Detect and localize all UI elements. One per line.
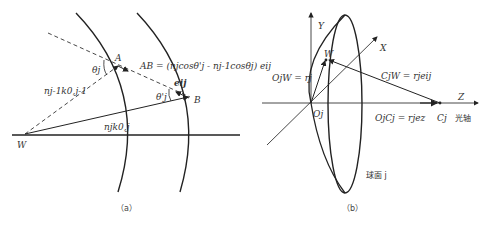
- label-optical-axis: 光轴: [455, 113, 471, 123]
- x-axis: [267, 37, 377, 145]
- point-Cj: [439, 102, 442, 105]
- label-n-k: njk0,j: [104, 122, 130, 132]
- caption-a: （a）: [116, 204, 137, 213]
- panel-b: Y X Z W Oj Cj 光轴 OjW = rj CjW = rjeij Oj…: [262, 13, 478, 213]
- equation-OjCj: OjCj = rjez: [375, 113, 426, 123]
- angle-theta-j-arc: [104, 60, 107, 75]
- sphere-cap-curve: [309, 15, 345, 193]
- equation-AB: AB = (njcosθ'j - nj-1cosθj) eij: [139, 61, 271, 71]
- equation-OjW: OjW = rj: [272, 73, 312, 83]
- panel-a: A B W θj θ'j eij nj-1k0,j-1 njk0,j AB = …: [12, 13, 271, 213]
- surface-arc-1: [76, 13, 128, 192]
- label-B: B: [193, 95, 201, 105]
- label-A: A: [114, 53, 122, 63]
- label-W: W: [324, 49, 334, 59]
- label-W: W: [17, 140, 27, 150]
- label-Y: Y: [318, 21, 325, 31]
- label-Oj: Oj: [313, 109, 323, 119]
- label-n-prev-k: nj-1k0,j-1: [44, 86, 87, 96]
- point-W: [325, 59, 328, 62]
- label-e-ij: eij: [174, 78, 187, 88]
- diagram-canvas: A B W θj θ'j eij nj-1k0,j-1 njk0,j AB = …: [0, 0, 488, 228]
- label-Cj: Cj: [437, 113, 447, 123]
- equation-CjW: CjW = rjeij: [381, 71, 431, 81]
- label-Z: Z: [457, 92, 465, 102]
- vector-Cj-W: [329, 60, 440, 103]
- caption-b: （b）: [342, 204, 363, 213]
- label-surface-j: 球面 j: [366, 170, 387, 180]
- label-theta-j: θj: [92, 65, 100, 75]
- vector-Oj-W: [311, 61, 325, 103]
- label-theta-j-prime: θ'j: [156, 92, 167, 102]
- label-X: X: [379, 43, 387, 53]
- angle-theta-j-prime-arc: [169, 89, 171, 101]
- sphere-ellipse: [328, 15, 362, 193]
- vector-e-ij: [176, 92, 189, 98]
